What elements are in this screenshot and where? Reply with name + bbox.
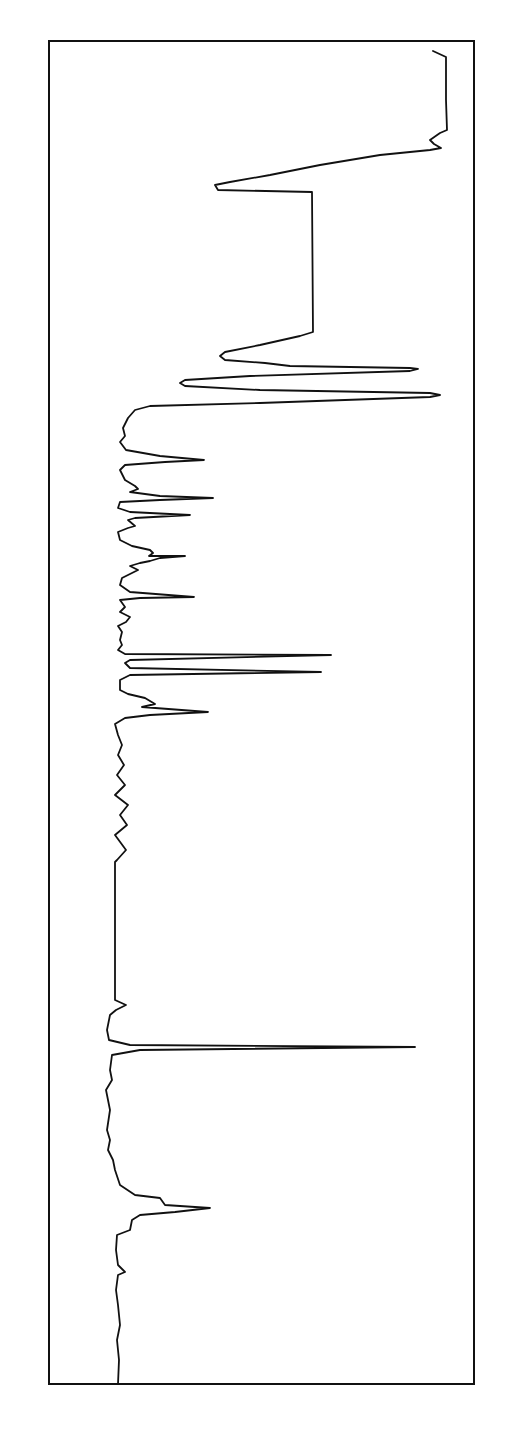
plot-frame bbox=[49, 41, 474, 1384]
ir-spectrum-chart bbox=[0, 0, 523, 1445]
spectrum-trace bbox=[106, 51, 447, 1384]
